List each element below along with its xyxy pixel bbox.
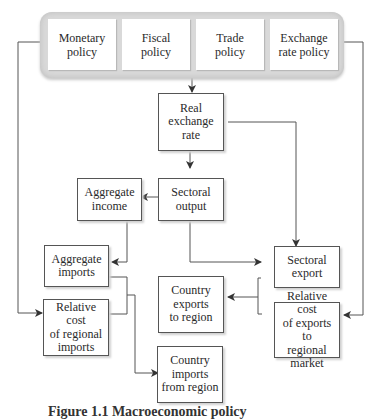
exchange-rate-policy-label: Exchange rate policy — [279, 31, 330, 59]
real-exchange-rate-label: Real exchange rate — [168, 102, 213, 143]
figure-caption-text: Macroeconomic policy — [112, 404, 247, 419]
country-exports-to-region-label: Country exports to region — [170, 284, 213, 325]
relative-cost-exports-label: Relative cost of exports to regional mar… — [277, 290, 337, 371]
relative-cost-regional-imports-label: Relative cost of regional imports — [46, 301, 106, 355]
sectoral-output-label: Sectoral output — [171, 186, 210, 213]
monetary-policy-label: Monetary policy — [59, 31, 106, 59]
sectoral-export-box: Sectoral export — [274, 246, 340, 288]
trade-policy-label: Trade policy — [215, 31, 245, 59]
sectoral-export-label: Sectoral export — [287, 254, 326, 281]
relative-cost-regional-imports-box: Relative cost of regional imports — [43, 299, 109, 356]
relative-cost-exports-box: Relative cost of exports to regional mar… — [274, 302, 340, 358]
trade-policy-box: Trade policy — [196, 19, 264, 70]
aggregate-imports-label: Aggregate imports — [52, 253, 102, 280]
aggregate-income-box: Aggregate income — [77, 178, 142, 221]
country-imports-from-region-box: Country imports from region — [157, 346, 223, 403]
aggregate-income-label: Aggregate income — [85, 186, 135, 213]
fiscal-policy-label: Fiscal policy — [141, 31, 171, 59]
sectoral-output-box: Sectoral output — [158, 178, 224, 221]
real-exchange-rate-box: Real exchange rate — [158, 93, 224, 151]
country-imports-from-region-label: Country imports from region — [162, 354, 219, 395]
exchange-rate-policy-box: Exchange rate policy — [270, 19, 338, 70]
country-exports-to-region-box: Country exports to region — [158, 276, 224, 333]
fiscal-policy-box: Fiscal policy — [122, 19, 190, 70]
figure-number: Figure 1.1 — [48, 404, 108, 419]
aggregate-imports-box: Aggregate imports — [44, 245, 109, 287]
monetary-policy-box: Monetary policy — [48, 19, 116, 70]
figure-caption: Figure 1.1 Macroeconomic policy — [48, 404, 247, 420]
